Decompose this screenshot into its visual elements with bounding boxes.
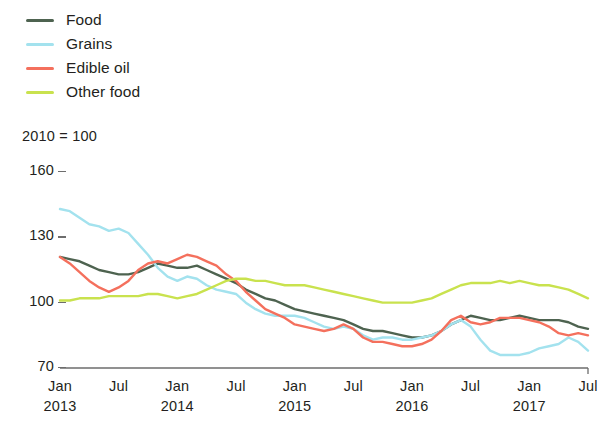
plot-area bbox=[0, 0, 604, 421]
series-line-edible-oil bbox=[60, 255, 588, 346]
series-line-other-food bbox=[60, 279, 588, 303]
chart-container: Food Grains Edible oil Other food 2010 =… bbox=[0, 0, 604, 421]
x-axis-line bbox=[60, 368, 588, 374]
